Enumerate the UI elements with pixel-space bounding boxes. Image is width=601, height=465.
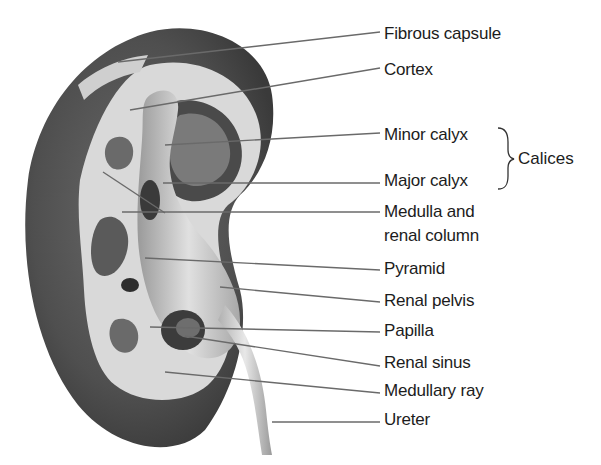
label-medullary-ray: Medullary ray xyxy=(384,382,483,400)
label-pyramid: Pyramid xyxy=(384,260,445,278)
label-fibrous-capsule: Fibrous capsule xyxy=(384,25,501,43)
label-medulla-line2: renal column xyxy=(384,227,479,245)
label-renal-sinus: Renal sinus xyxy=(384,354,471,372)
label-papilla: Papilla xyxy=(384,322,434,340)
label-minor-calyx: Minor calyx xyxy=(384,126,468,144)
label-major-calyx: Major calyx xyxy=(384,172,468,190)
label-cortex: Cortex xyxy=(384,61,433,79)
label-calices: Calices xyxy=(518,150,574,168)
kidney-diagram: Fibrous capsule Cortex Minor calyx Major… xyxy=(0,0,601,465)
label-renal-pelvis: Renal pelvis xyxy=(384,292,474,310)
label-ureter: Ureter xyxy=(384,411,430,429)
label-medulla-line1: Medulla and xyxy=(384,203,474,221)
kidney-illustration xyxy=(0,0,601,465)
calices-brace xyxy=(498,128,514,189)
